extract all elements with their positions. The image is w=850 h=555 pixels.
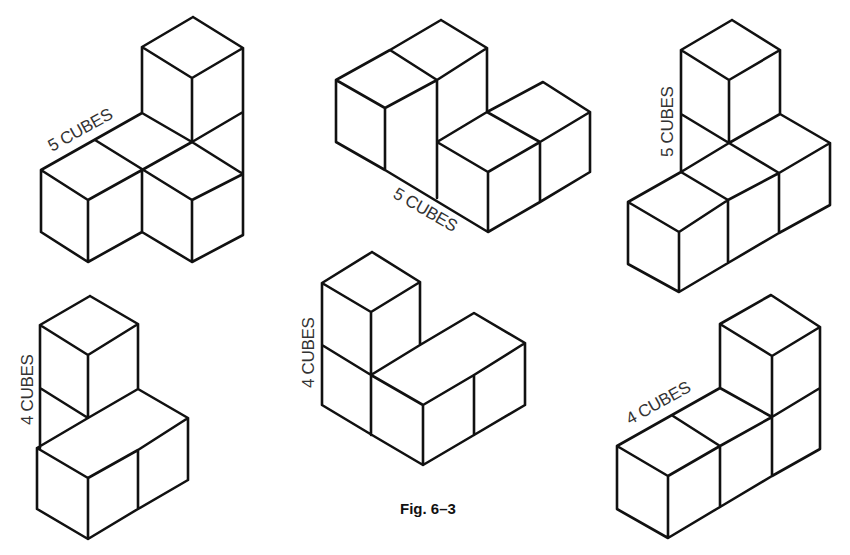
figure-5-cubes-c: 5 CUBES [628, 20, 830, 292]
figure-label: 5 CUBES [658, 86, 677, 157]
figure-label: 4 CUBES [299, 317, 318, 388]
figure-label: 4 CUBES [623, 378, 694, 429]
figure-5-cubes-a: 5 CUBES [41, 17, 243, 262]
figure-5-cubes-b: 5 CUBES [336, 20, 590, 236]
figure-caption: Fig. 6–3 [400, 500, 456, 517]
figure-4-cubes-e: 4 CUBES [299, 252, 525, 465]
figure-label: 4 CUBES [18, 354, 37, 425]
figure-4-cubes-d: 4 CUBES [18, 296, 188, 539]
isometric-cubes-diagram: 5 CUBES 5 CUBES 5 CUBES 4 CUBES 4 CUBES … [0, 0, 850, 555]
figure-4-cubes-f: 4 CUBES [617, 295, 820, 538]
